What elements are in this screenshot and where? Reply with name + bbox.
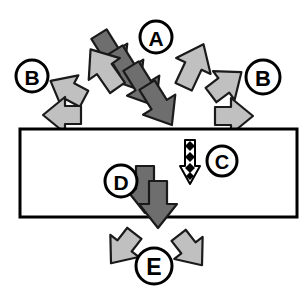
label-c: C	[207, 146, 237, 176]
diagram-root: A B B C D E	[0, 0, 308, 289]
label-text-c: C	[215, 151, 229, 173]
label-text-a: A	[148, 27, 163, 50]
diagram-canvas: A B B C D E	[0, 0, 308, 289]
label-b-left: B	[16, 60, 48, 92]
label-a: A	[140, 21, 172, 53]
label-text-b-left: B	[24, 66, 39, 89]
label-e: E	[136, 248, 172, 284]
label-d: D	[105, 165, 137, 197]
label-text-d: D	[113, 171, 128, 194]
label-text-e: E	[146, 254, 161, 280]
arrow-group-b-right	[166, 36, 253, 134]
label-b-right: B	[246, 60, 280, 94]
label-text-b-right: B	[255, 66, 271, 91]
